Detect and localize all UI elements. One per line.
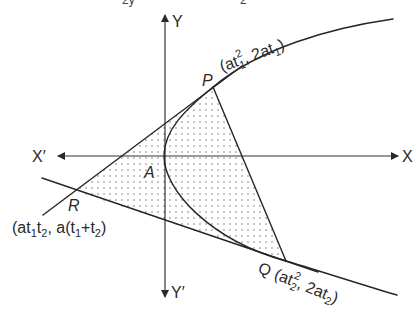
heading-fragment-2: 2 [240, 0, 247, 7]
point-q-label: Q [256, 259, 274, 279]
x-axis-label: X [402, 148, 413, 165]
parabola-tangents-diagram: 2y 2 Y Y′ X X′ A P (at12, 2at1) Q(at22, … [0, 0, 414, 323]
x-neg-axis-label: X′ [32, 148, 46, 165]
point-q-label-group: Q(at22, 2at2) [255, 255, 343, 309]
y-axis-label: Y [172, 13, 183, 30]
point-r-coordinates: (at1t2, a(t1+t2) [12, 219, 106, 239]
vertex-label-a: A [143, 164, 155, 181]
heading-fragment-1: 2y [122, 0, 135, 7]
svg-text:(at12, 2at1): (at12, 2at1) [216, 32, 288, 78]
y-neg-axis-label: Y′ [171, 284, 185, 301]
point-p-label: P [202, 72, 213, 89]
point-r-label: R [68, 197, 80, 214]
point-p-coordinates: (at12, 2at1) [216, 32, 288, 78]
svg-text:Q(at22, 2at2): Q(at22, 2at2) [255, 255, 343, 309]
